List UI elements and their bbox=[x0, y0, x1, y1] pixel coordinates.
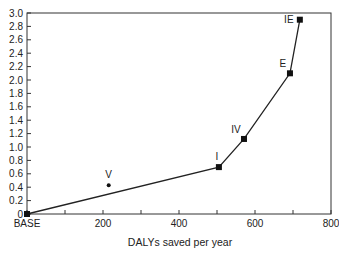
y-tick-label: 0.6 bbox=[9, 168, 23, 179]
x-tick-label: 400 bbox=[171, 218, 188, 229]
y-tick-label: 1.4 bbox=[9, 115, 23, 126]
data-point-marker bbox=[216, 164, 222, 170]
data-point-marker bbox=[24, 211, 30, 217]
y-tick-label: 2.2 bbox=[9, 61, 23, 72]
x-tick-label: 800 bbox=[323, 218, 339, 229]
data-point-label: E bbox=[280, 58, 287, 69]
data-series: IIVEIEV bbox=[24, 14, 303, 217]
x-tick-label: BASE bbox=[14, 218, 41, 229]
x-axis-title: DALYs saved per year bbox=[128, 236, 233, 248]
frontier-line bbox=[27, 20, 300, 214]
data-point-marker bbox=[287, 70, 293, 76]
data-point-label: IV bbox=[231, 124, 241, 135]
x-tick-label: 600 bbox=[247, 218, 264, 229]
y-tick-label: 3.0 bbox=[9, 8, 23, 19]
y-tick-label: 2.6 bbox=[9, 34, 23, 45]
x-axis: BASE200400600800 bbox=[14, 210, 339, 229]
chart: 00.20.40.60.81.01.21.41.61.82.02.22.42.6… bbox=[0, 0, 339, 256]
y-tick-label: 0.2 bbox=[9, 195, 23, 206]
y-tick-label: 1.6 bbox=[9, 101, 23, 112]
data-point-label: IE bbox=[284, 14, 294, 25]
y-tick-label: 1.2 bbox=[9, 128, 23, 139]
y-tick-label: 0.4 bbox=[9, 182, 23, 193]
y-axis: 00.20.40.60.81.01.21.41.61.82.02.22.42.6… bbox=[9, 8, 31, 220]
plot-border bbox=[27, 13, 331, 214]
y-tick-label: 0.8 bbox=[9, 155, 23, 166]
y-tick-label: 1.0 bbox=[9, 142, 23, 153]
data-point-label: V bbox=[105, 169, 112, 180]
plot-frame bbox=[27, 13, 331, 214]
x-tick-label: 200 bbox=[95, 218, 112, 229]
data-point-marker bbox=[241, 136, 247, 142]
data-point-marker bbox=[297, 17, 303, 23]
y-tick-label: 1.8 bbox=[9, 88, 23, 99]
y-tick-label: 2.0 bbox=[9, 75, 23, 86]
y-tick-label: 2.8 bbox=[9, 21, 23, 32]
data-point-label: I bbox=[216, 151, 219, 162]
data-point-dot bbox=[107, 183, 111, 187]
y-tick-label: 2.4 bbox=[9, 48, 23, 59]
